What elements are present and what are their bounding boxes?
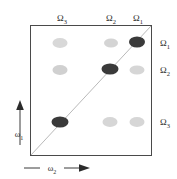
top-label-omega-2: Ω2 bbox=[106, 13, 116, 23]
right-label-text: Ω bbox=[160, 117, 167, 127]
cross-peak-w1-W3 bbox=[130, 117, 145, 127]
right-label-sub: 1 bbox=[167, 43, 170, 50]
x-axis-label-sub: 2 bbox=[53, 169, 56, 175]
right-label-omega-2: Ω2 bbox=[160, 65, 170, 75]
cross-peak-w2-W1 bbox=[104, 39, 118, 48]
diagonal-peak-W2 bbox=[102, 64, 119, 75]
right-label-text: Ω bbox=[160, 38, 167, 48]
right-label-text: Ω bbox=[160, 65, 167, 75]
diagonal-peak-W1 bbox=[129, 37, 145, 48]
right-label-sub: 3 bbox=[167, 122, 170, 129]
top-label-text: Ω bbox=[106, 13, 113, 23]
figure-container: Ω3Ω2Ω1 Ω1Ω2Ω3 ω1 ω2 bbox=[0, 0, 177, 179]
right-label-sub: 2 bbox=[167, 70, 170, 77]
cross-peak-w3-W2 bbox=[53, 65, 68, 75]
right-label-omega-3: Ω3 bbox=[160, 117, 170, 127]
top-label-sub: 1 bbox=[140, 18, 143, 25]
y-axis-label-sub: 1 bbox=[20, 135, 23, 141]
top-label-text: Ω bbox=[57, 13, 64, 23]
right-label-omega-1: Ω1 bbox=[160, 38, 170, 48]
x-axis-label: ω2 bbox=[48, 163, 57, 173]
top-label-text: Ω bbox=[133, 13, 140, 23]
cross-peak-w2-W3 bbox=[103, 117, 118, 127]
y-axis-label: ω1 bbox=[15, 129, 24, 139]
top-label-omega-3: Ω3 bbox=[57, 13, 67, 23]
x-axis-arrow-icon bbox=[24, 162, 90, 174]
top-label-sub: 3 bbox=[64, 18, 67, 25]
top-label-sub: 2 bbox=[113, 18, 116, 25]
cross-peak-w1-W2 bbox=[130, 66, 145, 75]
top-label-omega-1: Ω1 bbox=[133, 13, 143, 23]
diagonal-peak-W3 bbox=[52, 117, 69, 128]
cross-peak-w3-W1 bbox=[53, 38, 68, 48]
